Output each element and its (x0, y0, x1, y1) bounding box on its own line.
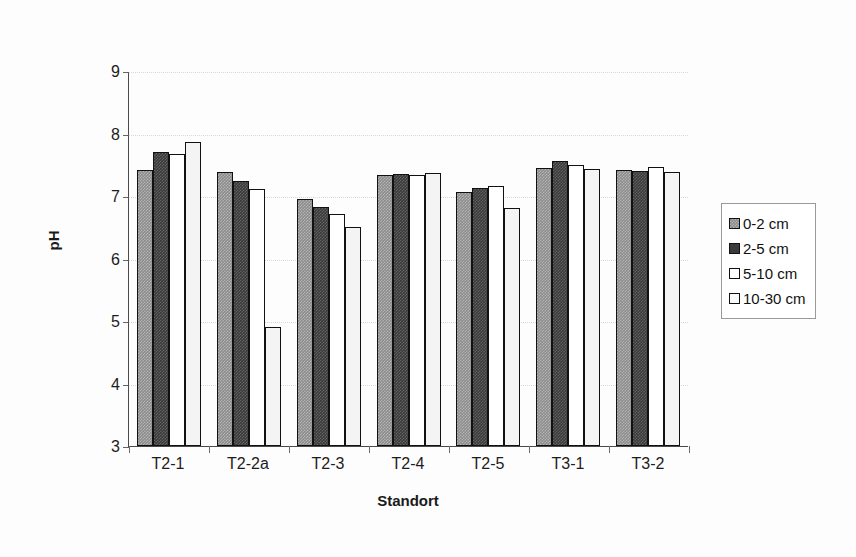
bar (568, 165, 584, 446)
bar-group (448, 72, 528, 446)
x-tick-mark (129, 446, 130, 453)
bar (393, 174, 409, 446)
bar (456, 192, 472, 446)
bar-group (528, 72, 608, 446)
bar (345, 227, 361, 446)
y-tick-label: 7 (111, 188, 120, 206)
legend-item-label: 2-5 cm (743, 240, 789, 257)
legend-swatch-icon (729, 218, 740, 229)
bar (169, 154, 185, 446)
bar-group (608, 72, 688, 446)
legend-item: 0-2 cm (729, 211, 806, 236)
bar (265, 327, 281, 446)
bar (313, 207, 329, 446)
bar (249, 189, 265, 446)
bar (472, 188, 488, 446)
bar-group (289, 72, 369, 446)
legend-item-label: 5-10 cm (743, 265, 797, 282)
bar (409, 175, 425, 446)
bar-group (209, 72, 289, 446)
plot-area: 3456789 (128, 72, 688, 447)
bar (536, 168, 552, 446)
x-tick-mark (529, 446, 530, 453)
bar (504, 208, 520, 446)
legend-swatch-icon (729, 243, 740, 254)
bar (632, 171, 648, 446)
x-tick-mark (369, 446, 370, 453)
y-axis-title: pH (45, 226, 62, 256)
y-tick-label: 6 (111, 251, 120, 269)
x-tick-mark (289, 446, 290, 453)
bar-groups (129, 72, 688, 446)
x-tick-label: T2-2a (208, 455, 288, 473)
bar (377, 175, 393, 446)
x-tick-mark (449, 446, 450, 453)
x-tick-label: T3-1 (528, 455, 608, 473)
bar (616, 170, 632, 446)
x-tick-mark (209, 446, 210, 453)
bar (233, 181, 249, 446)
bar (137, 170, 153, 446)
x-tick-label: T2-3 (288, 455, 368, 473)
x-tick-label: T2-1 (128, 455, 208, 473)
legend-swatch-icon (729, 268, 740, 279)
bar (329, 214, 345, 446)
chart-legend: 0-2 cm2-5 cm5-10 cm10-30 cm (721, 203, 816, 319)
legend-item: 2-5 cm (729, 236, 806, 261)
bar (425, 173, 441, 446)
bar-group (129, 72, 209, 446)
y-tick-label: 4 (111, 376, 120, 394)
legend-item-label: 10-30 cm (743, 290, 806, 307)
bar-group (369, 72, 449, 446)
bar (664, 172, 680, 446)
bar (153, 152, 169, 446)
bar (217, 172, 233, 446)
bar (297, 199, 313, 447)
legend-swatch-icon (729, 293, 740, 304)
x-tick-mark (689, 446, 690, 453)
bar (488, 186, 504, 446)
chart-figure: pH 3456789 T2-1T2-2aT2-3T2-4T2-5T3-1T3-2… (0, 0, 856, 557)
legend-item-label: 0-2 cm (743, 215, 789, 232)
bar (584, 169, 600, 446)
legend-item: 5-10 cm (729, 261, 806, 286)
y-tick-label: 9 (111, 63, 120, 81)
bar (552, 161, 568, 446)
y-tick-label: 8 (111, 126, 120, 144)
y-tick-label: 3 (111, 438, 120, 456)
x-tick-label: T3-2 (608, 455, 688, 473)
bar (185, 142, 201, 446)
x-tick-label: T2-4 (368, 455, 448, 473)
x-tick-mark (609, 446, 610, 453)
y-tick-label: 5 (111, 313, 120, 331)
bar (648, 167, 664, 446)
legend-item: 10-30 cm (729, 286, 806, 311)
x-tick-label: T2-5 (448, 455, 528, 473)
x-axis-title: Standort (128, 492, 688, 509)
